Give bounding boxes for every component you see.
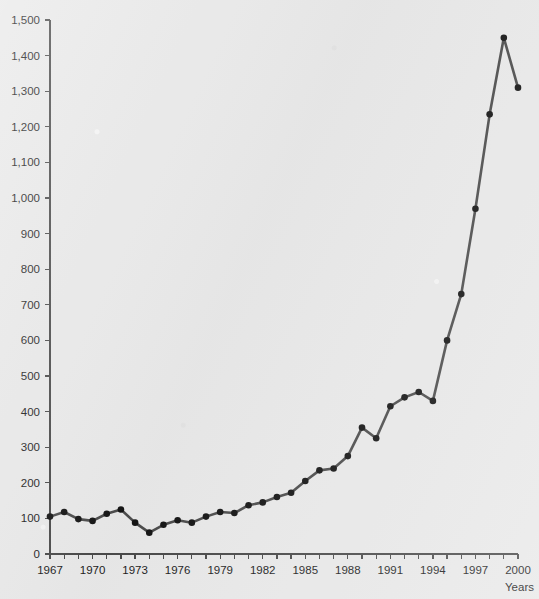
data-point-marker (231, 510, 238, 517)
data-point-marker (387, 403, 394, 410)
y-tick-label: 1,000 (11, 192, 40, 204)
data-point-marker (359, 424, 366, 431)
y-tick-label: 500 (21, 370, 40, 382)
x-tick-label: 1991 (378, 564, 404, 576)
y-tick-label: 0 (34, 548, 40, 560)
x-tick-label: 2000 (505, 564, 531, 576)
x-tick-label: 1997 (463, 564, 489, 576)
y-tick-label: 700 (21, 299, 40, 311)
data-point-marker (288, 489, 295, 496)
y-tick-label: 1,100 (11, 156, 40, 168)
plot-area: 01002003004005006007008009001,0001,1001,… (0, 0, 539, 599)
series-line (50, 38, 518, 533)
y-tick-label: 1,200 (11, 121, 40, 133)
data-point-marker (302, 478, 309, 485)
y-tick-label: 800 (21, 263, 40, 275)
y-axis-ticks: 01002003004005006007008009001,0001,1001,… (11, 14, 50, 560)
x-tick-label: 1982 (250, 564, 276, 576)
x-tick-label: 1967 (37, 564, 63, 576)
data-point-marker (189, 519, 196, 526)
data-point-marker (430, 398, 437, 405)
data-point-marker (486, 111, 493, 118)
data-point-marker (132, 519, 139, 526)
y-tick-label: 300 (21, 441, 40, 453)
y-tick-label: 400 (21, 406, 40, 418)
data-point-marker (203, 513, 210, 520)
data-point-marker (217, 509, 224, 516)
x-tick-label: 1985 (292, 564, 318, 576)
y-tick-label: 1,300 (11, 85, 40, 97)
data-point-marker (160, 522, 167, 529)
data-point-marker (316, 467, 323, 474)
data-point-marker (118, 506, 125, 513)
data-point-marker (89, 518, 96, 525)
series-markers (47, 35, 522, 536)
data-point-marker (245, 502, 252, 509)
data-point-marker (47, 513, 54, 520)
data-point-marker (458, 291, 465, 298)
y-tick-label: 1,500 (11, 14, 40, 26)
x-tick-label: 1976 (165, 564, 191, 576)
data-point-marker (472, 205, 479, 212)
data-point-marker (146, 529, 153, 536)
data-point-marker (330, 465, 337, 472)
data-point-marker (103, 510, 110, 517)
data-point-marker (515, 84, 522, 91)
y-tick-label: 200 (21, 477, 40, 489)
y-tick-label: 600 (21, 334, 40, 346)
y-tick-label: 100 (21, 512, 40, 524)
data-point-marker (501, 35, 508, 42)
x-tick-label: 1970 (80, 564, 106, 576)
x-tick-label: 1988 (335, 564, 361, 576)
data-point-marker (373, 435, 380, 442)
data-point-marker (61, 509, 68, 516)
data-point-marker (345, 453, 352, 460)
x-tick-label: 1973 (122, 564, 148, 576)
line-chart-figure: 01002003004005006007008009001,0001,1001,… (0, 0, 539, 599)
x-axis-title: Years (505, 581, 534, 593)
data-point-marker (401, 394, 408, 401)
data-point-marker (174, 517, 181, 524)
x-tick-label: 1994 (420, 564, 446, 576)
data-point-marker (444, 337, 451, 344)
data-point-marker (415, 389, 422, 396)
x-axis-ticks: 1967197019731976197919821985198819911994… (37, 554, 531, 576)
data-point-marker (75, 516, 82, 523)
data-point-marker (274, 494, 281, 501)
data-point-marker (259, 499, 266, 506)
x-tick-label: 1979 (207, 564, 233, 576)
y-tick-label: 900 (21, 228, 40, 240)
y-tick-label: 1,400 (11, 50, 40, 62)
